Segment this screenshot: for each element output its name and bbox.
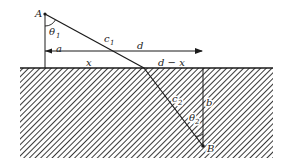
label-d-distance: d xyxy=(137,40,143,51)
refraction-diagram: A B θ 1 c 1 a d x d − x c 2 b θ 2 xyxy=(0,0,288,166)
label-theta1: θ xyxy=(49,26,55,37)
label-b-distance: b xyxy=(206,97,212,108)
lower-medium-hatched-region xyxy=(20,68,273,158)
label-x-distance: x xyxy=(86,57,92,68)
point-a xyxy=(43,12,46,15)
label-theta1-subscript: 1 xyxy=(56,32,60,40)
label-theta2-subscript: 2 xyxy=(194,118,200,126)
label-c1-subscript: 1 xyxy=(110,39,114,47)
label-b-point: B xyxy=(206,143,214,154)
point-b xyxy=(201,144,205,148)
arrow-left-head xyxy=(45,49,52,54)
label-a-distance: a xyxy=(56,43,62,54)
label-c2-subscript: 2 xyxy=(177,99,183,107)
incident-ray-c1 xyxy=(45,14,144,68)
label-a-point: A xyxy=(34,8,42,19)
label-d-minus-x-distance: d − x xyxy=(158,57,185,68)
